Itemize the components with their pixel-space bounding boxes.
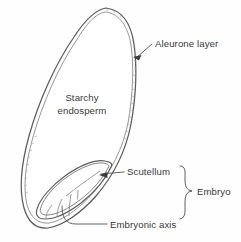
seed-diagram-container: Aleurone layer Starchy endosperm Scutell… [0,0,241,242]
label-aleurone-layer: Aleurone layer [155,38,219,49]
label-scutellum: Scutellum [127,166,170,177]
label-embryo: Embryo [197,186,231,197]
label-starchy-endosperm-line2: endosperm [58,105,107,116]
label-starchy-endosperm-line1: Starchy [65,92,98,103]
label-embryonic-axis: Embryonic axis [110,219,177,230]
seed-structure-diagram: Aleurone layer Starchy endosperm Scutell… [0,0,241,242]
